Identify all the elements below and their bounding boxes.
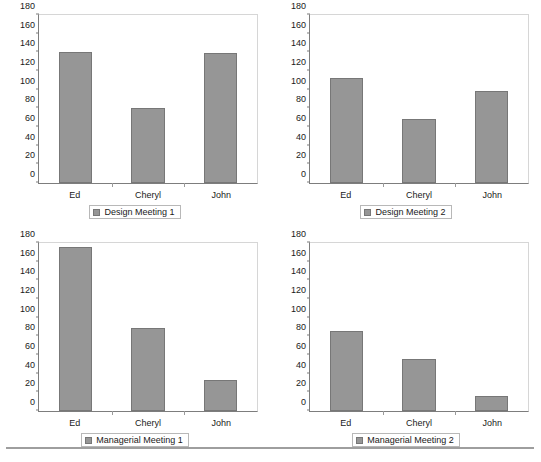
y-tick-label: 100 <box>20 304 35 313</box>
chart-managerial-meeting-1: 020406080100120140160180 EdCherylJohn Ma… <box>0 228 270 459</box>
y-tick-label: 60 <box>296 114 306 123</box>
plot-wrapper: 020406080100120140160180 EdCherylJohn <box>0 228 270 424</box>
plot-wrapper: 020406080100120140160180 EdCherylJohn <box>271 0 541 196</box>
y-tick-label: 80 <box>296 95 306 104</box>
plot-area: 020406080100120140160180 <box>309 14 529 184</box>
y-tick-label: 180 <box>20 230 35 239</box>
chart-legend: Design Meeting 2 <box>271 205 541 219</box>
bar[interactable] <box>475 91 508 183</box>
chart-design-meeting-1: 020406080100120140160180 EdCherylJohn De… <box>0 0 270 231</box>
y-tick-label: 80 <box>296 323 306 332</box>
y-tick-label: 80 <box>25 323 35 332</box>
chart-legend: Managerial Meeting 2 <box>271 433 541 447</box>
bar[interactable] <box>131 108 164 183</box>
legend-swatch-icon <box>85 437 92 444</box>
footer-caption <box>8 454 308 462</box>
y-tick-label: 100 <box>291 304 306 313</box>
x-axis-label: Ed <box>309 418 382 428</box>
bar-slot <box>383 243 456 411</box>
bar-slot <box>39 15 112 183</box>
legend-box: Design Meeting 1 <box>89 205 180 219</box>
legend-swatch-icon <box>356 437 363 444</box>
x-axis-label: Cheryl <box>111 190 184 200</box>
y-tick-label: 60 <box>25 342 35 351</box>
x-tick-mark <box>184 183 185 187</box>
y-tick-label: 180 <box>291 230 306 239</box>
x-tick-mark <box>383 183 384 187</box>
bar[interactable] <box>330 331 363 411</box>
bar-slot <box>184 243 257 411</box>
y-tick-label: 180 <box>20 2 35 11</box>
x-tick-mark <box>383 411 384 415</box>
bar-slot <box>39 243 112 411</box>
legend-box: Managerial Meeting 1 <box>81 433 189 447</box>
y-tick-label: 40 <box>25 132 35 141</box>
y-tick-label: 140 <box>291 267 306 276</box>
y-tick-label: 100 <box>20 76 35 85</box>
bar-slot <box>310 15 383 183</box>
x-axis-label: John <box>185 418 258 428</box>
bar[interactable] <box>204 380 237 411</box>
plot-wrapper: 020406080100120140160180 EdCherylJohn <box>0 0 270 196</box>
plot-area: 020406080100120140160180 <box>309 242 529 412</box>
y-tick-label: 60 <box>296 342 306 351</box>
x-tick-mark <box>455 411 456 415</box>
bar-slot <box>112 243 185 411</box>
bar-slot <box>455 243 528 411</box>
y-tick-label: 80 <box>25 95 35 104</box>
y-tick-label: 0 <box>30 170 35 179</box>
x-axis-label: John <box>456 418 529 428</box>
legend-swatch-icon <box>364 209 371 216</box>
x-axis-label: Ed <box>309 190 382 200</box>
y-tick-label: 0 <box>301 398 306 407</box>
y-tick-label: 20 <box>296 379 306 388</box>
y-tick-label: 20 <box>25 151 35 160</box>
y-tick-label: 40 <box>296 360 306 369</box>
bar[interactable] <box>131 328 164 411</box>
y-tick-label: 120 <box>291 58 306 67</box>
y-tick-label: 160 <box>20 20 35 29</box>
bar[interactable] <box>330 78 363 183</box>
bar-series <box>39 15 257 183</box>
legend-swatch-icon <box>93 209 100 216</box>
x-axis-labels: EdCherylJohn <box>38 418 258 428</box>
y-tick-label: 40 <box>296 132 306 141</box>
bar[interactable] <box>475 396 508 411</box>
footer-divider <box>6 447 534 449</box>
plot-area: 020406080100120140160180 <box>38 14 258 184</box>
y-tick-label: 160 <box>291 20 306 29</box>
bar-series <box>310 243 528 411</box>
bar-slot <box>455 15 528 183</box>
y-tick-label: 0 <box>301 170 306 179</box>
y-tick-label: 180 <box>291 2 306 11</box>
y-tick-label: 160 <box>291 248 306 257</box>
x-axis-labels: EdCherylJohn <box>309 418 529 428</box>
legend-label: Managerial Meeting 1 <box>96 435 183 445</box>
bar-slot <box>184 15 257 183</box>
bar-slot <box>383 15 456 183</box>
plot-wrapper: 020406080100120140160180 EdCherylJohn <box>271 228 541 424</box>
y-tick-label: 120 <box>291 286 306 295</box>
bar[interactable] <box>59 247 92 411</box>
y-tick-label: 40 <box>25 360 35 369</box>
x-axis-label: Cheryl <box>382 418 455 428</box>
bar[interactable] <box>59 52 92 183</box>
plot-area: 020406080100120140160180 <box>38 242 258 412</box>
bar-slot <box>310 243 383 411</box>
chart-managerial-meeting-2: 020406080100120140160180 EdCherylJohn Ma… <box>271 228 541 459</box>
x-tick-mark <box>455 183 456 187</box>
legend-label: Managerial Meeting 2 <box>367 435 454 445</box>
legend-label: Design Meeting 2 <box>375 207 445 217</box>
bar[interactable] <box>402 119 435 183</box>
y-tick-label: 120 <box>20 286 35 295</box>
bar[interactable] <box>204 53 237 183</box>
bar[interactable] <box>402 359 435 411</box>
y-tick-label: 100 <box>291 76 306 85</box>
x-axis-label: Ed <box>38 190 111 200</box>
x-axis-label: Cheryl <box>382 190 455 200</box>
legend-box: Design Meeting 2 <box>360 205 451 219</box>
x-axis-label: Ed <box>38 418 111 428</box>
y-tick-label: 140 <box>20 267 35 276</box>
x-axis-label: Cheryl <box>111 418 184 428</box>
y-tick-label: 60 <box>25 114 35 123</box>
